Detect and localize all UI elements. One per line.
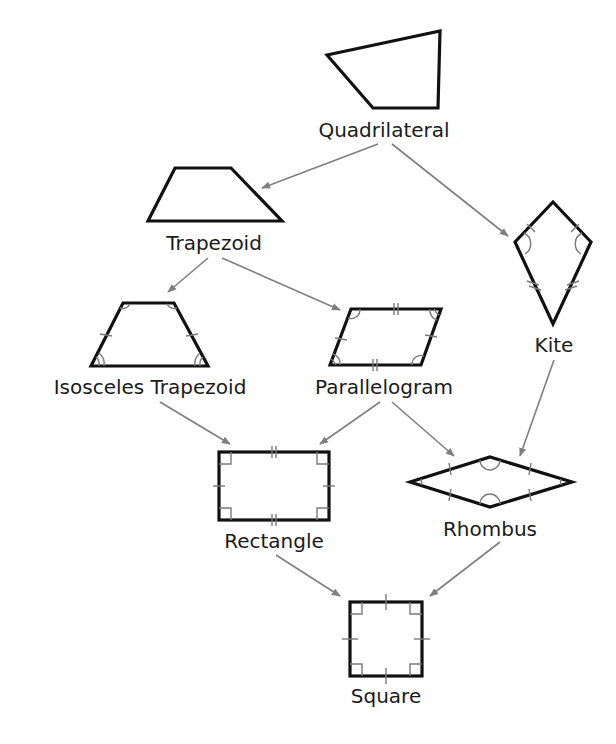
rhombus-tick bbox=[449, 463, 451, 475]
rectangle-shape bbox=[219, 452, 329, 520]
rhombus-label: Rhombus bbox=[443, 517, 537, 541]
isosceles-trapezoid-shape bbox=[91, 303, 208, 366]
node-rectangle: Rectangle bbox=[213, 446, 335, 553]
node-square: Square bbox=[342, 594, 430, 708]
node-isosceles-trapezoid: Isosceles Trapezoid bbox=[54, 303, 247, 399]
right-angle-mark bbox=[317, 508, 329, 520]
quadrilateral-label: Quadrilateral bbox=[318, 118, 449, 142]
square-label: Square bbox=[351, 684, 421, 708]
parallelogram-tick bbox=[335, 338, 347, 340]
node-parallelogram: Parallelogram bbox=[315, 303, 453, 399]
isosceles-trapezoid-label: Isosceles Trapezoid bbox=[54, 375, 247, 399]
right-angle-mark bbox=[350, 664, 362, 676]
rhombus-tick bbox=[529, 489, 531, 501]
rhombus-angle-arc bbox=[480, 460, 500, 470]
rhombus-angle-arc bbox=[560, 479, 561, 485]
arrow-parallelogram-to-rectangle bbox=[320, 402, 380, 444]
parallelogram-tick bbox=[425, 335, 437, 337]
arrow-rhombus-to-square bbox=[430, 542, 500, 596]
rhombus-angle-arc bbox=[421, 479, 422, 485]
rhombus-tick bbox=[529, 463, 531, 475]
arrow-kite-to-rhombus bbox=[520, 360, 554, 456]
node-kite: Kite bbox=[515, 202, 591, 357]
quadrilateral-shape bbox=[327, 31, 440, 108]
arrow-quadrilateral-to-kite bbox=[392, 144, 508, 236]
rectangle-label: Rectangle bbox=[224, 529, 324, 553]
kite-angle-arc bbox=[575, 233, 582, 254]
parallelogram-label: Parallelogram bbox=[315, 375, 453, 399]
arrow-rectangle-to-square bbox=[276, 555, 340, 596]
arrow-isosceles-to-rectangle bbox=[160, 402, 230, 444]
iso-trap-tick bbox=[100, 334, 112, 336]
right-angle-mark bbox=[410, 602, 422, 614]
right-angle-mark bbox=[410, 664, 422, 676]
square-shape bbox=[350, 602, 422, 676]
node-rhombus: Rhombus bbox=[410, 457, 572, 541]
trapezoid-shape bbox=[148, 168, 282, 221]
parallelogram-angle-arc bbox=[430, 309, 437, 320]
arrow-parallelogram-to-rhombus bbox=[392, 402, 454, 456]
right-angle-mark bbox=[350, 602, 362, 614]
rhombus-angle-arc bbox=[480, 494, 500, 504]
node-trapezoid: Trapezoid bbox=[148, 168, 282, 255]
trapezoid-label: Trapezoid bbox=[165, 231, 262, 255]
rhombus-shape bbox=[410, 457, 572, 507]
parallelogram-shape bbox=[330, 309, 441, 365]
arrow-trapezoid-to-parallelogram bbox=[222, 258, 340, 310]
kite-angle-arc bbox=[524, 233, 531, 254]
right-angle-mark bbox=[219, 508, 231, 520]
iso-trap-tick bbox=[186, 334, 198, 336]
right-angle-mark bbox=[317, 452, 329, 464]
kite-label: Kite bbox=[535, 333, 574, 357]
quadrilateral-hierarchy-diagram: Quadrilateral Trapezoid Kite Isosceles T… bbox=[0, 0, 616, 744]
node-quadrilateral: Quadrilateral bbox=[318, 31, 449, 142]
right-angle-mark bbox=[219, 452, 231, 464]
rhombus-tick bbox=[449, 489, 451, 501]
arrow-quadrilateral-to-trapezoid bbox=[262, 144, 378, 188]
kite-shape bbox=[515, 202, 591, 324]
arrow-trapezoid-to-isosceles bbox=[168, 258, 208, 292]
